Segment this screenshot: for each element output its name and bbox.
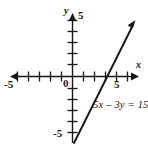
y-axis-label: y	[64, 6, 68, 16]
x-axis-label: x	[136, 60, 141, 70]
coordinate-plane	[0, 0, 148, 145]
y-axis-group	[68, 16, 78, 143]
graph-figure: -5 0 5 5 -5 x y 5x – 3y = 15	[0, 0, 148, 145]
equation-annotation: 5x – 3y = 15	[93, 100, 148, 111]
plotted-line-5x-3y-15	[74, 24, 134, 143]
x-axis-arrow-right	[131, 73, 139, 81]
x-tick-label--5: -5	[4, 79, 13, 90]
y-tick-label-5: 5	[78, 10, 84, 21]
y-tick-label--5: -5	[53, 128, 62, 139]
x-tick-label-5: 5	[114, 79, 120, 90]
y-axis-arrow-up	[69, 13, 77, 21]
origin-label: 0	[63, 78, 69, 89]
